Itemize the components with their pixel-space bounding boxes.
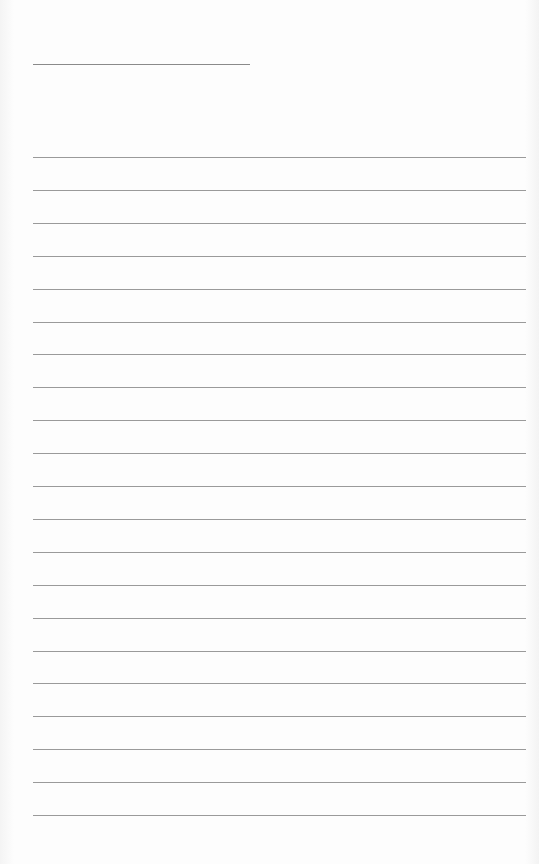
ruled-line [33, 716, 526, 717]
ruled-line [33, 683, 526, 684]
ruled-line [33, 420, 526, 421]
ruled-line [33, 552, 526, 553]
ruled-line [33, 486, 526, 487]
ruled-line [33, 322, 526, 323]
ruled-line [33, 618, 526, 619]
ruled-line [33, 815, 526, 816]
ruled-line [33, 157, 526, 158]
ruled-line [33, 651, 526, 652]
ruled-line [33, 585, 526, 586]
ruled-line [33, 190, 526, 191]
ruled-line [33, 749, 526, 750]
title-line [33, 64, 250, 65]
ruled-line [33, 453, 526, 454]
lined-paper [0, 0, 539, 864]
ruled-line [33, 256, 526, 257]
ruled-line [33, 519, 526, 520]
ruled-line [33, 289, 526, 290]
ruled-line [33, 387, 526, 388]
ruled-line [33, 354, 526, 355]
ruled-line [33, 782, 526, 783]
ruled-line [33, 223, 526, 224]
